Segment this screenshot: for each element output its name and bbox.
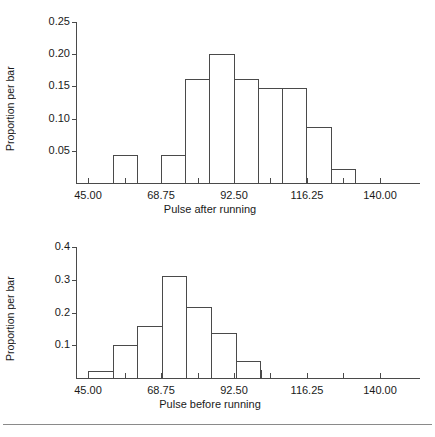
x-tick-label: 92.50 — [204, 189, 264, 201]
y-tick-label: 0.10 — [30, 112, 70, 124]
x-tick — [380, 178, 381, 183]
x-tick — [380, 373, 381, 378]
x-tick-label: 116.25 — [277, 384, 337, 396]
y-tick — [72, 345, 77, 346]
x-tick-label: 68.75 — [131, 189, 191, 201]
histogram-bar — [161, 155, 186, 184]
y-tick-label: 0.05 — [30, 144, 70, 156]
histogram-bar — [209, 54, 235, 184]
x-tick-label: 68.75 — [131, 384, 191, 396]
y-tick-label: 0.2 — [30, 306, 70, 318]
y-tick-label: 0.3 — [30, 273, 70, 285]
y-axis-line — [76, 22, 77, 184]
x-tick-minor — [270, 373, 271, 378]
footer-divider — [3, 424, 432, 425]
x-tick-label: 140.00 — [350, 384, 410, 396]
histogram-bar — [137, 326, 163, 379]
x-axis-title: Pulse after running — [0, 203, 420, 215]
histogram-bar — [306, 127, 332, 184]
x-tick — [88, 178, 89, 183]
x-tick-label: 92.50 — [204, 384, 264, 396]
histogram-bar — [260, 370, 262, 379]
histogram-bar — [113, 155, 138, 184]
y-tick — [72, 280, 77, 281]
x-tick-label: 45.00 — [58, 384, 118, 396]
histogram-bar — [211, 333, 237, 379]
y-axis-title: Proportion per bar — [4, 55, 16, 151]
x-tick-label: 140.00 — [350, 189, 410, 201]
y-tick-label: 0.15 — [30, 79, 70, 91]
y-tick — [72, 22, 77, 23]
x-tick-minor — [343, 373, 344, 378]
y-tick — [72, 313, 77, 314]
histogram-bar — [282, 88, 307, 184]
histogram-bar — [186, 307, 212, 379]
histogram-bar — [113, 345, 138, 379]
histogram-bar — [331, 169, 356, 184]
y-tick-label: 0.20 — [30, 47, 70, 59]
histogram-bar — [236, 361, 261, 379]
histogram-bar — [88, 371, 114, 379]
y-tick — [72, 119, 77, 120]
x-tick-label: 45.00 — [58, 189, 118, 201]
y-tick — [72, 247, 77, 248]
x-tick-label: 116.25 — [277, 189, 337, 201]
y-tick-label: 0.1 — [30, 338, 70, 350]
y-tick-label: 0.4 — [30, 240, 70, 252]
histogram-bar — [185, 79, 210, 184]
x-axis-title: Pulse before running — [0, 398, 420, 410]
y-tick-label: 0.25 — [30, 15, 70, 27]
y-tick — [72, 54, 77, 55]
y-tick — [72, 151, 77, 152]
y-tick — [72, 86, 77, 87]
histogram-bar — [234, 79, 259, 184]
histogram-bar — [258, 88, 283, 184]
histogram-bar — [162, 276, 187, 379]
x-tick — [307, 373, 308, 378]
y-axis-title: Proportion per bar — [4, 265, 16, 361]
